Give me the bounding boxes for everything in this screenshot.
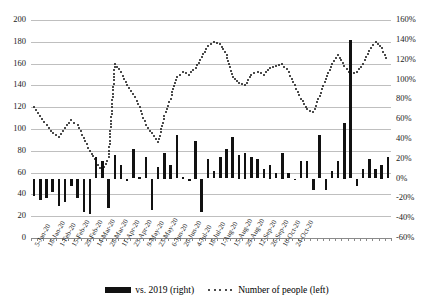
bar <box>225 149 228 179</box>
data-point <box>269 67 271 69</box>
data-point <box>202 53 204 55</box>
data-point <box>340 59 342 61</box>
bar <box>114 155 117 179</box>
data-point <box>112 96 114 98</box>
data-point <box>60 133 62 135</box>
bar-swatch-icon <box>105 287 131 293</box>
bar <box>238 155 241 179</box>
data-point <box>226 54 228 56</box>
bar <box>269 165 272 179</box>
data-point <box>123 78 125 80</box>
data-point <box>83 137 85 139</box>
data-point <box>111 113 113 115</box>
data-point <box>140 110 142 112</box>
data-point <box>174 82 176 84</box>
data-point <box>247 79 249 81</box>
right-axis-tick-label: 120% <box>396 54 430 64</box>
x-tick <box>391 238 392 241</box>
right-axis-tick-label: 160% <box>396 14 430 24</box>
right-axis-tick-label: 40% <box>396 133 430 143</box>
data-point <box>170 98 172 100</box>
bar <box>281 153 284 179</box>
bar <box>163 153 166 179</box>
data-point <box>167 105 169 107</box>
data-point <box>348 71 350 73</box>
data-point <box>171 94 173 96</box>
data-point <box>358 68 360 70</box>
data-point <box>84 140 86 142</box>
data-point <box>109 140 111 142</box>
bar <box>58 179 61 207</box>
data-point <box>172 88 174 90</box>
data-point <box>360 66 362 68</box>
bar <box>263 169 266 179</box>
bar <box>76 179 79 199</box>
bar <box>157 167 160 179</box>
data-point <box>159 135 161 137</box>
bar <box>207 159 210 179</box>
data-point <box>309 110 311 112</box>
data-point <box>109 133 111 135</box>
left-axis-tick-label: 0 <box>0 232 26 242</box>
data-point <box>108 150 110 152</box>
right-axis-tick-label: 20% <box>396 153 430 163</box>
data-point <box>295 88 297 90</box>
x-tick <box>335 238 336 241</box>
left-axis-tick-label: 60 <box>0 167 26 177</box>
bar <box>374 169 377 179</box>
right-axis-tick-label: 60% <box>396 113 430 123</box>
x-tick <box>366 238 367 241</box>
x-tick <box>348 238 349 241</box>
data-point <box>331 63 333 65</box>
data-point <box>80 130 82 132</box>
bar <box>169 165 172 179</box>
legend-label-bars: vs. 2019 (right) <box>135 285 194 295</box>
data-point <box>73 122 75 124</box>
data-point <box>298 94 300 96</box>
data-point <box>130 90 132 92</box>
data-point <box>113 76 115 78</box>
data-point <box>267 69 269 71</box>
bar <box>387 157 390 179</box>
bar <box>89 179 92 215</box>
data-point <box>265 71 267 73</box>
bar <box>51 179 54 193</box>
data-point <box>306 108 308 110</box>
chart-legend: vs. 2019 (right) Number of people (left) <box>0 285 434 295</box>
bar <box>176 135 179 179</box>
data-point <box>231 73 233 75</box>
bar <box>294 179 297 180</box>
bar <box>318 135 321 179</box>
data-point <box>136 100 138 102</box>
data-point <box>120 71 122 73</box>
data-point <box>333 60 335 62</box>
data-point <box>182 71 184 73</box>
bar <box>151 179 154 211</box>
data-point <box>110 120 112 122</box>
x-tick <box>379 238 380 241</box>
data-point <box>286 68 288 70</box>
data-point <box>230 70 232 72</box>
x-tick <box>385 238 386 241</box>
bar <box>132 149 135 179</box>
bar <box>219 157 222 179</box>
data-point <box>137 103 139 105</box>
data-point <box>196 64 198 66</box>
data-point <box>289 75 291 77</box>
gridline <box>31 107 391 108</box>
data-point <box>122 75 124 77</box>
right-axis-tick-label: 140% <box>396 34 430 44</box>
bar <box>306 161 309 179</box>
data-point <box>368 50 370 52</box>
data-point <box>158 138 160 140</box>
data-point <box>199 59 201 61</box>
data-point <box>192 69 194 71</box>
data-point <box>228 63 230 65</box>
bar <box>194 141 197 179</box>
data-point <box>321 88 323 90</box>
data-point <box>226 57 228 59</box>
data-point <box>382 51 384 53</box>
data-point <box>134 96 136 98</box>
data-point <box>224 51 226 53</box>
data-point <box>109 143 111 145</box>
